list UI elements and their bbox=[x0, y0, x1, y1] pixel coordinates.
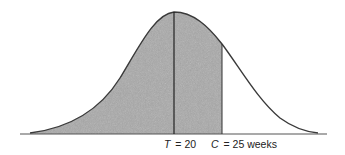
shaded-area bbox=[30, 12, 222, 134]
label-C-value: = 25 weeks bbox=[224, 138, 277, 150]
label-C: C = 25 weeks bbox=[211, 138, 277, 150]
normal-distribution-figure: T = 20 C = 25 weeks bbox=[0, 0, 345, 155]
label-T-value: = 20 bbox=[175, 138, 196, 150]
label-T: T = 20 bbox=[164, 138, 196, 150]
label-T-symbol: T bbox=[164, 138, 172, 150]
label-C-symbol: C bbox=[211, 138, 219, 150]
